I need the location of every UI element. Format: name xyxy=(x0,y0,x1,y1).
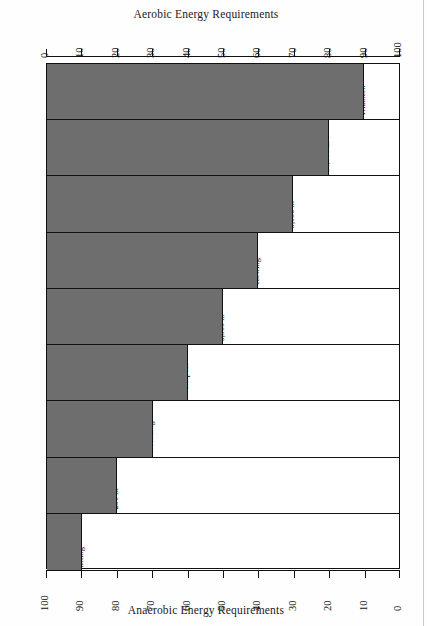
row-label-rotated: 10%MarathonTriathlon xyxy=(364,66,367,116)
axis-tick-label: 0 xyxy=(392,606,403,611)
axis-tick xyxy=(258,571,259,578)
axis-tick-label: 40 xyxy=(181,48,192,59)
axis-tick-label: 0 xyxy=(39,53,50,58)
axis-tick xyxy=(188,571,189,578)
bar-segment xyxy=(47,345,188,400)
row-label-lines: 10%MarathonTriathlon xyxy=(364,84,367,116)
row-label-lines: 60%BadmintonRugbyTabletennisTENNISWaterp… xyxy=(188,360,191,397)
row-label-rotated: 70%AikidoBoxingFigureskatingIce hockeyRo… xyxy=(153,403,156,453)
chart-root: Aerobic Energy Requirements 010203040506… xyxy=(0,0,427,626)
row-sport-label: 200 m xyxy=(117,471,120,510)
bar-segment xyxy=(47,401,153,456)
bar-segment xyxy=(47,514,82,570)
row-label-box: 20%OrienteeringTrack10,000 m xyxy=(329,120,399,175)
bottom-axis: 1009080706050403020100 xyxy=(46,570,400,584)
row-label-rotated: 40%CanoeingKayakingMoun-taineeringRowing xyxy=(258,235,261,285)
row-sport-label: Waterpolo xyxy=(188,360,191,397)
row-label-lines: 40%CanoeingKayakingMoun-taineeringRowing xyxy=(258,252,261,285)
row-label-lines: 30%Speedskating10,000 mSwimming1,500 mTr… xyxy=(293,192,296,228)
row-label-rotated: 90%DivingFootballSwimming50-100 mTrack10… xyxy=(82,517,85,567)
axis-tick xyxy=(365,571,366,578)
row-sport-label: Rowing xyxy=(258,252,261,285)
bar-segment xyxy=(47,176,293,231)
plot-area: 10%MarathonTriathlon20%OrienteeringTrack… xyxy=(46,63,400,569)
row-label-box: 60%BadmintonRugbyTabletennisTENNISWaterp… xyxy=(188,345,399,400)
bar-segment xyxy=(47,289,223,344)
row-label-rotated: 50%BasketballFieldhockeyRacquetballSocce… xyxy=(223,291,226,341)
row-sport-label: 3,000 m xyxy=(223,301,226,341)
axis-tick-label: 60 xyxy=(251,48,262,59)
bar-segment xyxy=(47,458,117,513)
axis-tick xyxy=(81,571,82,578)
axis-tick xyxy=(152,571,153,578)
row-label-lines: 70%AikidoBoxingFigureskatingIce hockeyRo… xyxy=(153,417,156,453)
axis-tick xyxy=(294,571,295,578)
axis-tick-label: 70 xyxy=(287,48,298,59)
row-label-box: 40%CanoeingKayakingMoun-taineeringRowing xyxy=(258,233,399,288)
chart-row: 60%BadmintonRugbyTabletennisTENNISWaterp… xyxy=(47,345,399,401)
axis-tick-label: 80 xyxy=(322,48,333,59)
axis-tick-label: 30 xyxy=(145,48,156,59)
row-label-rotated: 60%BadmintonRugbyTabletennisTENNISWaterp… xyxy=(188,347,191,397)
row-label-box: 70%AikidoBoxingFigureskatingIce hockeyRo… xyxy=(153,401,399,456)
top-axis-title: Aerobic Energy Requirements xyxy=(36,8,376,20)
chart-row: 80%AlpineskiingBaseballGymnasticsIce hoc… xyxy=(47,458,399,514)
row-label-lines: 90%DivingFootballSwimming50-100 mTrack10… xyxy=(82,531,85,567)
row-sport-label: lifting xyxy=(82,531,85,567)
row-label-box: 90%DivingFootballSwimming50-100 mTrack10… xyxy=(82,514,399,570)
top-axis: 0102030405060708090100 xyxy=(46,49,400,63)
axis-tick-label: 10 xyxy=(74,48,85,59)
row-label-box: 30%Speedskating10,000 mSwimming1,500 mTr… xyxy=(293,176,399,231)
chart-row: 50%BasketballFieldhockeyRacquetballSocce… xyxy=(47,289,399,345)
row-label-rotated: 80%AlpineskiingBaseballGymnasticsIce hoc… xyxy=(117,460,120,510)
bar-segment xyxy=(47,120,329,175)
axis-tick xyxy=(117,571,118,578)
chart-row: 70%AikidoBoxingFigureskatingIce hockeyRo… xyxy=(47,401,399,457)
axis-tick xyxy=(329,571,330,578)
row-sport-label: 5,000 m xyxy=(293,192,296,228)
bottom-axis-title: Anaerobic Energy Requirements xyxy=(36,604,376,616)
chart-row: 10%MarathonTriathlon xyxy=(47,64,399,120)
chart-row: 30%Speedskating10,000 mSwimming1,500 mTr… xyxy=(47,176,399,232)
row-sport-label: Wrestling xyxy=(153,417,156,453)
bar-segment xyxy=(47,64,364,119)
chart-row: 20%OrienteeringTrack10,000 m xyxy=(47,120,399,176)
row-sport-label: 10,000 m xyxy=(329,131,332,173)
axis-tick-label: 90 xyxy=(358,48,369,59)
chart-row: 90%DivingFootballSwimming50-100 mTrack10… xyxy=(47,514,399,570)
row-label-box: 50%BasketballFieldhockeyRacquetballSocce… xyxy=(223,289,399,344)
row-label-rotated: 30%Speedskating10,000 mSwimming1,500 mTr… xyxy=(293,178,296,228)
row-label-box: 80%AlpineskiingBaseballGymnasticsIce hoc… xyxy=(117,458,399,513)
page-edge-line xyxy=(423,0,424,626)
chart-row: 40%CanoeingKayakingMoun-taineeringRowing xyxy=(47,233,399,289)
row-label-lines: 50%BasketballFieldhockeyRacquetballSocce… xyxy=(223,301,226,341)
axis-tick xyxy=(399,571,400,578)
axis-tick-label: 20 xyxy=(110,48,121,59)
row-sport-label: Triathlon xyxy=(364,84,367,116)
axis-tick-label: 100 xyxy=(392,42,403,58)
row-label-lines: 20%OrienteeringTrack10,000 m xyxy=(329,131,332,173)
axis-tick xyxy=(223,571,224,578)
row-label-rotated: 20%OrienteeringTrack10,000 m xyxy=(329,122,332,172)
axis-tick-label: 50 xyxy=(216,48,227,59)
bar-segment xyxy=(47,233,258,288)
axis-tick xyxy=(46,571,47,578)
row-label-lines: 80%AlpineskiingBaseballGymnasticsIce hoc… xyxy=(117,471,120,510)
row-label-box: 10%MarathonTriathlon xyxy=(364,64,399,119)
